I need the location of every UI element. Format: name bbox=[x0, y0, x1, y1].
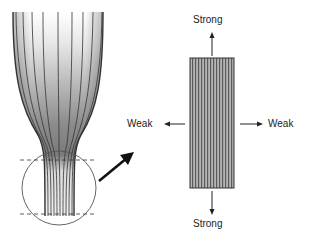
label-weak-right: Weak bbox=[268, 118, 293, 130]
pointer-arrow-icon bbox=[99, 152, 134, 181]
tendon-funnel bbox=[13, 12, 103, 216]
tissue-section bbox=[190, 58, 234, 188]
arrow-left-icon bbox=[164, 122, 185, 127]
label-weak-left: Weak bbox=[127, 118, 152, 130]
label-strong-bottom: Strong bbox=[193, 218, 222, 230]
fiber-diagram bbox=[0, 0, 312, 242]
label-strong-top: Strong bbox=[193, 14, 222, 26]
arrow-up-icon bbox=[210, 32, 215, 56]
arrow-right-icon bbox=[240, 122, 263, 127]
arrow-down-icon bbox=[210, 191, 215, 215]
